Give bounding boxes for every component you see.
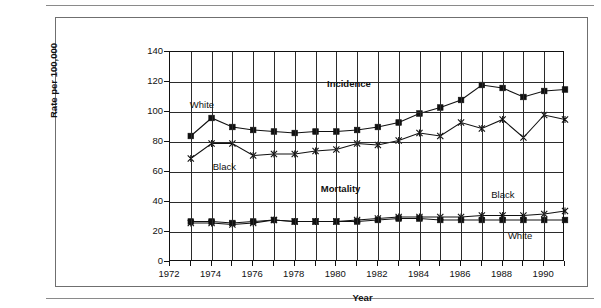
gridline-vertical — [253, 52, 254, 260]
gridline-vertical — [212, 52, 213, 260]
gridline-vertical — [544, 52, 545, 260]
y-axis-title: Rate per 100,000 — [48, 43, 59, 118]
gridline-vertical — [440, 52, 441, 260]
x-tick-label: 1974 — [191, 269, 231, 279]
y-tick-label: 100 — [129, 106, 163, 116]
gridline-horizontal — [170, 172, 563, 173]
x-tick-label: 1982 — [357, 269, 397, 279]
gridline-vertical — [295, 52, 296, 260]
x-tick-mark — [252, 261, 253, 266]
y-tick-mark — [164, 51, 169, 52]
x-tick-mark — [522, 261, 523, 266]
chart-annotation: White — [190, 100, 214, 110]
gridline-vertical — [461, 52, 462, 260]
y-tick-label: 80 — [129, 136, 163, 146]
y-tick-label: 60 — [129, 166, 163, 176]
x-tick-label: 1976 — [232, 269, 272, 279]
x-tick-mark — [564, 261, 565, 266]
x-tick-label: 1980 — [315, 269, 355, 279]
y-tick-mark — [164, 81, 169, 82]
x-tick-mark — [502, 261, 503, 266]
y-tick-label: 140 — [129, 46, 163, 56]
data-point-marker-square — [562, 217, 568, 223]
x-tick-label: 1986 — [440, 269, 480, 279]
y-tick-label: 0 — [129, 256, 163, 266]
chart-annotation: Incidence — [327, 79, 371, 89]
y-tick-label: 120 — [129, 76, 163, 86]
gridline-vertical — [523, 52, 524, 260]
x-tick-mark — [335, 261, 336, 266]
chart-annotation: Black — [491, 190, 514, 200]
gridline-vertical — [316, 52, 317, 260]
y-tick-mark — [164, 111, 169, 112]
x-tick-mark — [315, 261, 316, 266]
chart-annotation: White — [508, 231, 532, 241]
x-tick-label: 1988 — [482, 269, 522, 279]
gridline-vertical — [232, 52, 233, 260]
chart-annotation: Mortality — [321, 184, 361, 194]
chart-annotation: Black — [213, 162, 236, 172]
gridline-vertical — [420, 52, 421, 260]
figure-border-box: Rate per 100,000 020406080100120140 1972… — [55, 17, 588, 287]
x-tick-mark — [294, 261, 295, 266]
x-tick-mark — [439, 261, 440, 266]
divider-top — [46, 5, 594, 6]
x-tick-label: 1978 — [274, 269, 314, 279]
x-tick-mark — [356, 261, 357, 266]
x-tick-mark — [190, 261, 191, 266]
gridline-horizontal — [170, 142, 563, 143]
x-tick-mark — [460, 261, 461, 266]
y-tick-label: 20 — [129, 226, 163, 236]
gridline-horizontal — [170, 232, 563, 233]
x-tick-label: 1972 — [149, 269, 189, 279]
x-tick-label: 1984 — [399, 269, 439, 279]
x-tick-mark — [481, 261, 482, 266]
gridline-vertical — [482, 52, 483, 260]
figure-page: Rate per 100,000 020406080100120140 1972… — [0, 0, 601, 308]
y-tick-label: 40 — [129, 196, 163, 206]
gridline-vertical — [274, 52, 275, 260]
gridline-horizontal — [170, 202, 563, 203]
x-tick-mark — [231, 261, 232, 266]
gridline-vertical — [378, 52, 379, 260]
x-tick-mark — [543, 261, 544, 266]
gridline-vertical — [191, 52, 192, 260]
x-axis-title: Year — [353, 292, 373, 303]
data-point-marker-square — [562, 87, 568, 93]
x-tick-mark — [419, 261, 420, 266]
y-tick-mark — [164, 141, 169, 142]
x-tick-mark — [273, 261, 274, 266]
y-tick-mark — [164, 171, 169, 172]
x-tick-mark — [398, 261, 399, 266]
y-tick-mark — [164, 201, 169, 202]
divider-bottom — [46, 298, 594, 299]
x-tick-mark — [377, 261, 378, 266]
y-tick-mark — [164, 231, 169, 232]
gridline-vertical — [503, 52, 504, 260]
x-tick-label: 1990 — [523, 269, 563, 279]
gridline-horizontal — [170, 112, 563, 113]
x-tick-mark — [211, 261, 212, 266]
gridline-vertical — [399, 52, 400, 260]
x-tick-mark — [169, 261, 170, 266]
